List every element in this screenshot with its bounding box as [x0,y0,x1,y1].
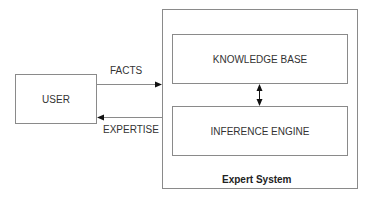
arrowhead-down-icon [257,99,263,106]
facts-arrow [97,82,162,88]
expertise-arrow [97,115,162,121]
arrowhead-left-icon [97,115,104,121]
kb-ie-double-arrow [257,84,263,106]
arrowhead-right-icon [155,82,162,88]
connector-layer [0,0,369,197]
arrowhead-up-icon [257,84,263,91]
